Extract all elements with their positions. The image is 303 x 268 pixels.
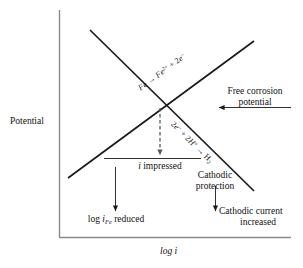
cathodic-current-increased-label: Cathodic current increased: [219, 206, 297, 227]
anodic-polarization-line: [68, 41, 254, 178]
cathodic-protection-label: Cathodic protection: [176, 170, 254, 191]
polarization-diagram: Potential log i Fe → Fe2+ + 2e− 2e− + 2H…: [0, 0, 303, 268]
y-axis-label: Potential: [10, 116, 44, 127]
x-axis-label: log i: [160, 246, 177, 257]
log-i-reduced-label: log iFe reduced: [76, 214, 156, 225]
free-corrosion-potential-label: Free corrosion potential: [213, 86, 297, 107]
diagram-canvas: [0, 0, 303, 268]
